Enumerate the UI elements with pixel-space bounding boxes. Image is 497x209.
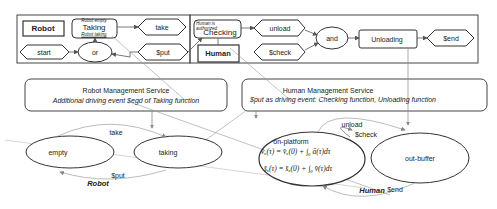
diagram-shapes — [0, 0, 497, 209]
taking-bottom-note: Robot taking — [81, 33, 106, 38]
velocity-equation: v̄ₓ(τ) = v̄ₓ(0) + ∫₀ ā(τ)dτ — [261, 148, 330, 156]
put-transition-label: $put — [111, 172, 125, 179]
empty-state — [26, 136, 114, 168]
position-equation: s̄ₓ(τ) = s̄ₓ(0) + ∫₀ v̄(τ)dτ — [264, 165, 332, 173]
robot-service-subtitle: Additional driving event $egd of Taking … — [53, 97, 199, 104]
checking-label: Checking — [203, 29, 236, 37]
on-platform-label: on-platform — [273, 138, 308, 145]
out-buffer-label: out-buffer — [405, 155, 435, 162]
take-label: take — [155, 24, 168, 31]
robot-service-box — [25, 79, 227, 111]
or-label: or — [92, 49, 98, 56]
unloading-label: Unloading — [371, 36, 403, 43]
take-transition-label: take — [109, 129, 122, 136]
diagram-canvas: Robot Robot empty Taking Robot taking ta… — [0, 0, 497, 209]
unload-transition-label: unload — [341, 121, 362, 128]
unload-label: unload — [269, 25, 290, 32]
human-service-box — [242, 79, 487, 111]
human-machine-name: Human — [359, 187, 384, 195]
and-label: and — [326, 35, 338, 42]
check-label: $check — [269, 49, 291, 56]
start-label: start — [37, 49, 51, 56]
robot-label: Robot — [31, 25, 54, 33]
taking-state — [134, 136, 222, 168]
human-service-subtitle: $put as driving event: Checking function… — [250, 96, 436, 103]
end-label: $end — [443, 35, 459, 42]
human-label: Human — [205, 50, 230, 58]
robot-service-title: Robot Management Service — [83, 87, 170, 94]
human-service-title: Human Management Service — [283, 87, 374, 94]
end-transition-label: $end — [387, 186, 403, 193]
empty-state-label: empty — [48, 149, 67, 156]
robot-machine-name: Robot — [87, 180, 109, 188]
put-label: $put — [156, 49, 170, 56]
check-transition-label: $check — [355, 131, 377, 138]
taking-state-label: taking — [159, 149, 178, 156]
